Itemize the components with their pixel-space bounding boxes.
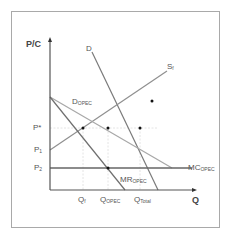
demand-curve-d bbox=[92, 52, 158, 190]
opec-demand-curve bbox=[50, 97, 172, 168]
curve-label-s-f: Sf bbox=[167, 63, 174, 71]
mr-mc-intersection-point bbox=[107, 167, 110, 170]
opec-marginal-revenue-curve bbox=[50, 97, 125, 190]
mr-opec-text: MR bbox=[120, 175, 132, 184]
price-label-p1: P1 bbox=[34, 146, 42, 154]
p-star-text: P* bbox=[33, 123, 41, 132]
curve-label-d: D bbox=[86, 45, 92, 53]
total-demand-point bbox=[139, 127, 142, 130]
p1-sub: 1 bbox=[39, 148, 42, 154]
y-axis-arrow-icon bbox=[48, 37, 52, 42]
curve-label-mr-opec: MROPEC bbox=[120, 176, 147, 184]
d-text: D bbox=[86, 44, 92, 53]
q-f-sub: f bbox=[84, 198, 85, 204]
quantity-label-q-f: Qf bbox=[78, 196, 86, 204]
market-equilibrium-point bbox=[151, 100, 154, 103]
p2-sub: 2 bbox=[39, 166, 42, 172]
opec-price-point bbox=[107, 127, 110, 130]
price-label-p-star: P* bbox=[33, 124, 41, 132]
fringe-supply-point bbox=[82, 127, 85, 130]
quantity-label-q-total: QTotal bbox=[134, 196, 151, 204]
curve-label-mc-opec: MCOPEC bbox=[188, 164, 215, 172]
q-opec-sub: OPEC bbox=[106, 198, 120, 204]
curve-label-d-opec: DOPEC bbox=[72, 98, 92, 106]
x-axis-arrow-icon bbox=[192, 188, 197, 192]
mc-opec-sub: OPEC bbox=[200, 166, 214, 172]
mr-opec-sub: OPEC bbox=[132, 178, 146, 184]
price-label-p2: P2 bbox=[34, 164, 42, 172]
q-total-sub: Total bbox=[140, 198, 151, 204]
y-axis-label: P/C bbox=[26, 40, 41, 49]
x-axis-label: Q bbox=[192, 196, 199, 205]
d-opec-sub: OPEC bbox=[78, 100, 92, 106]
mc-opec-text: MC bbox=[188, 163, 200, 172]
quantity-label-q-opec: QOPEC bbox=[100, 196, 120, 204]
supply-curve-fringe bbox=[50, 71, 167, 150]
s-f-sub: f bbox=[172, 65, 173, 71]
